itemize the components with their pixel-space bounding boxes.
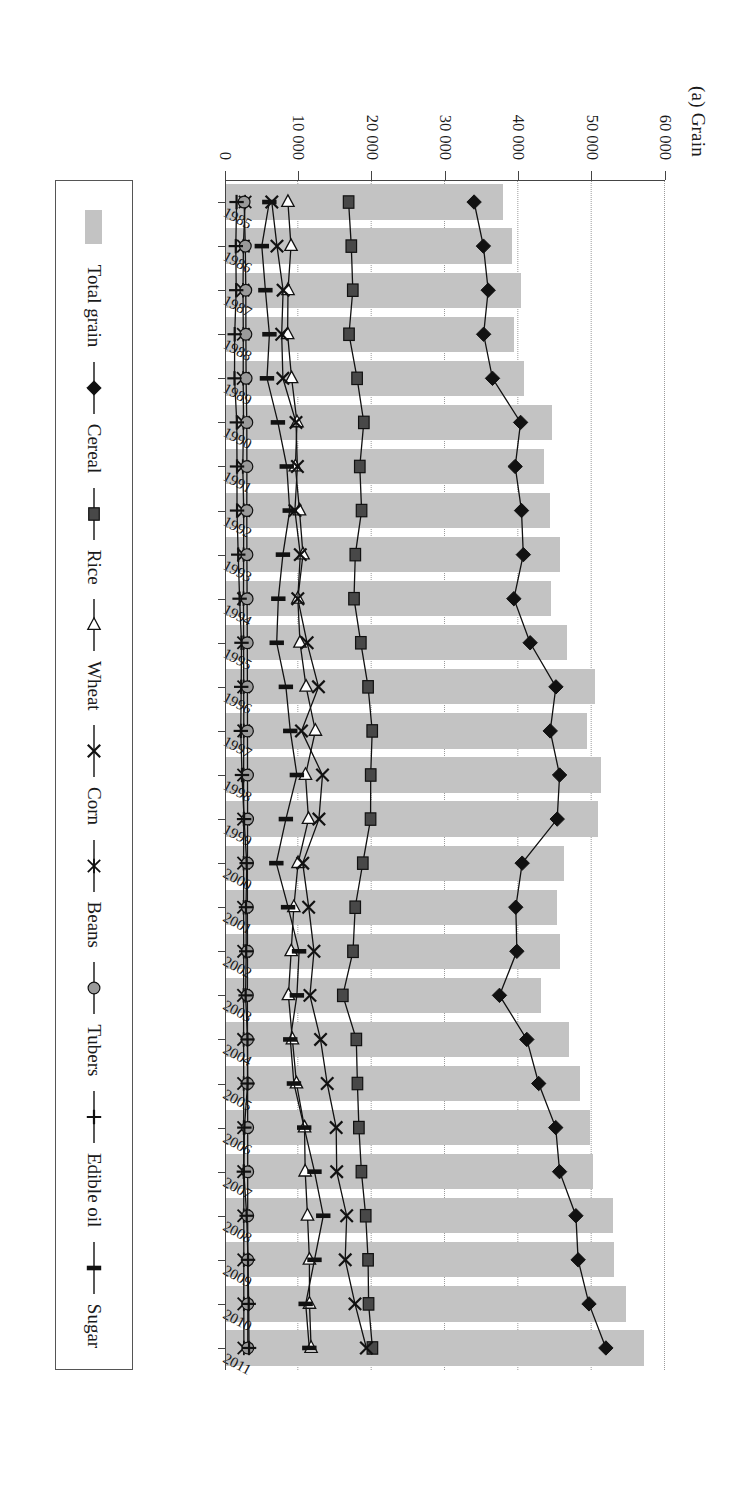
x-axis-line — [225, 180, 226, 1370]
x-axis-tick — [218, 555, 225, 556]
legend-label: Beans — [83, 902, 105, 948]
x-axis-tick — [218, 995, 225, 996]
x-axis-tick — [218, 1039, 225, 1040]
legend-swatch — [85, 210, 102, 244]
x-axis-tick — [218, 599, 225, 600]
x-axis-tick — [218, 202, 225, 203]
series-corn — [266, 196, 373, 1354]
x-axis-tick — [218, 511, 225, 512]
y-axis-label: 10 000 — [288, 115, 308, 160]
legend: Total grainCerealRiceWheatCornBeansTuber… — [55, 180, 133, 1370]
x-cross-icon — [83, 724, 105, 778]
x-axis-tick — [218, 1348, 225, 1349]
y-axis-tick — [371, 171, 372, 180]
y-axis-tick — [665, 171, 666, 180]
x-axis-tick — [218, 863, 225, 864]
x-axis-tick — [218, 775, 225, 776]
y-axis-label: 30 000 — [435, 115, 455, 160]
legend-label: Edible oil — [83, 1153, 105, 1227]
y-axis-label: 50 000 — [582, 115, 602, 160]
legend-item: Tubers — [83, 961, 105, 1076]
x-axis-tick — [218, 422, 225, 423]
series-cereal — [467, 195, 613, 1355]
x-axis-tick — [218, 290, 225, 291]
legend-label: Wheat — [83, 661, 105, 711]
y-axis-label: 0 — [215, 152, 235, 160]
legend-label: Sugar — [83, 1304, 105, 1348]
legend-item: Edible oil — [83, 1090, 105, 1227]
x-axis-tick — [218, 819, 225, 820]
series-overlay — [225, 180, 665, 1370]
legend-item: Total grain — [83, 202, 105, 348]
plot-area: 010 00020 00030 00040 00050 00060 000198… — [225, 180, 665, 1370]
x-axis-tick — [218, 643, 225, 644]
legend-label: Total grain — [83, 265, 105, 348]
legend-item: Wheat — [83, 598, 105, 711]
filled-bar-swatch-icon — [83, 202, 105, 256]
y-axis-tick — [518, 171, 519, 180]
chart-title: (a) Grain — [687, 86, 709, 157]
x-axis-tick — [218, 951, 225, 952]
y-axis-label: 40 000 — [508, 115, 528, 160]
x-axis-tick — [218, 1304, 225, 1305]
legend-item: Corn — [83, 724, 105, 825]
figure-rotation-wrapper: (a) Grain 010 00020 00030 00040 00050 00… — [0, 0, 733, 1500]
legend-item: Sugar — [83, 1241, 105, 1348]
x-axis-tick — [218, 1172, 225, 1173]
x-axis-tick — [218, 1260, 225, 1261]
x-axis-tick — [218, 334, 225, 335]
filled-circle-icon — [83, 961, 105, 1015]
y-axis-tick — [591, 171, 592, 180]
y-axis-tick — [225, 171, 226, 180]
x-axis-tick — [218, 907, 225, 908]
open-triangle-icon — [83, 598, 105, 652]
series-rice — [338, 196, 378, 1354]
x-axis-tick — [218, 466, 225, 467]
legend-label: Rice — [83, 550, 105, 585]
y-axis-tick — [298, 171, 299, 180]
x-axis-tick — [218, 1216, 225, 1217]
y-axis-label: 60 000 — [655, 115, 675, 160]
x-axis-tick — [218, 731, 225, 732]
legend-label: Tubers — [83, 1024, 105, 1076]
filled-diamond-icon — [83, 361, 105, 415]
x-axis-tick — [218, 1084, 225, 1085]
y-axis-label: 20 000 — [362, 115, 382, 160]
plus-cross-icon — [83, 1090, 105, 1144]
legend-item: Beans — [83, 839, 105, 948]
legend-item: Cereal — [83, 361, 105, 474]
vertical-bar-icon — [83, 1241, 105, 1295]
legend-label: Corn — [83, 787, 105, 825]
y-axis-tick — [445, 171, 446, 180]
x-axis-tick — [218, 687, 225, 688]
x-axis-tick — [218, 378, 225, 379]
x-axis-tick — [218, 1128, 225, 1129]
legend-item: Rice — [83, 487, 105, 585]
figure: (a) Grain 010 00020 00030 00040 00050 00… — [0, 0, 733, 1500]
asterisk-icon — [83, 839, 105, 893]
filled-square-icon — [83, 487, 105, 541]
legend-items: Total grainCerealRiceWheatCornBeansTuber… — [56, 181, 132, 1369]
x-axis-tick — [218, 246, 225, 247]
legend-label: Cereal — [83, 424, 105, 474]
